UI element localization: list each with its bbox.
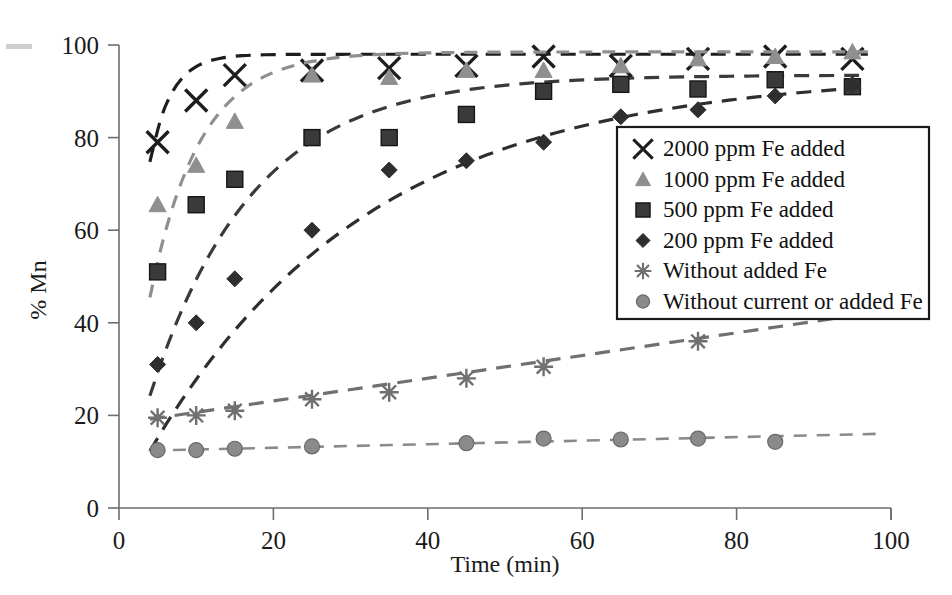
marker-asterisk-icon	[225, 401, 244, 420]
legend-item-label: 500 ppm Fe added	[663, 197, 834, 222]
chart-legend: 2000 ppm Fe added1000 ppm Fe added500 pp…	[617, 127, 929, 319]
marker-circle-icon	[459, 436, 474, 451]
series-trend-line	[150, 434, 876, 451]
x-tick-label: 20	[261, 527, 286, 554]
marker-square-icon	[458, 106, 474, 122]
x-tick-label: 80	[724, 527, 749, 554]
marker-triangle-icon	[381, 69, 398, 84]
scan-artifact	[6, 44, 32, 49]
x-axis-title: Time (min)	[450, 551, 559, 577]
series-group	[150, 431, 876, 458]
y-tick-label: 60	[74, 217, 99, 244]
legend-item-label: 200 ppm Fe added	[663, 228, 834, 253]
legend-item[interactable]: 2000 ppm Fe added	[633, 136, 845, 161]
marker-circle-icon	[305, 439, 320, 454]
chart-svg: 020406080100 020406080100 Time (min) % M…	[0, 0, 952, 595]
marker-asterisk-icon	[635, 263, 652, 280]
marker-circle-icon	[768, 434, 783, 449]
marker-square-icon	[767, 72, 783, 88]
marker-asterisk-icon	[303, 390, 322, 409]
marker-circle-icon	[691, 431, 706, 446]
y-tick-label: 100	[62, 32, 100, 59]
marker-diamond-icon	[381, 162, 397, 178]
marker-square-icon	[636, 203, 650, 217]
series-group	[148, 314, 868, 428]
marker-asterisk-icon	[148, 408, 167, 427]
y-tick-label: 40	[74, 310, 99, 337]
marker-x-cross-icon	[224, 64, 246, 86]
marker-square-icon	[304, 130, 320, 146]
y-tick-group: 020406080100	[62, 32, 120, 522]
marker-asterisk-icon	[187, 406, 206, 425]
marker-triangle-icon	[226, 113, 243, 128]
x-tick-label: 60	[570, 527, 595, 554]
legend-item[interactable]: 1000 ppm Fe added	[636, 167, 846, 192]
marker-diamond-icon	[613, 109, 629, 125]
legend-item-label: Without added Fe	[663, 258, 827, 283]
y-tick-label: 20	[74, 402, 99, 429]
marker-circle-icon	[189, 443, 204, 458]
legend-item[interactable]: Without current or added Fe	[636, 289, 922, 314]
marker-circle-icon	[227, 441, 242, 456]
marker-circle-icon	[536, 431, 551, 446]
marker-square-icon	[536, 83, 552, 99]
legend-item[interactable]: 200 ppm Fe added	[636, 228, 834, 253]
legend-item-label: 2000 ppm Fe added	[663, 136, 846, 161]
legend-item[interactable]: Without added Fe	[635, 258, 827, 283]
marker-diamond-icon	[304, 222, 320, 238]
y-axis-title: % Mn	[25, 260, 51, 319]
marker-diamond-icon	[767, 88, 783, 104]
marker-diamond-icon	[188, 315, 204, 331]
marker-square-icon	[188, 197, 204, 213]
legend-item[interactable]: 500 ppm Fe added	[636, 197, 834, 222]
marker-square-icon	[227, 171, 243, 187]
marker-circle-icon	[636, 295, 649, 308]
marker-circle-icon	[613, 432, 628, 447]
marker-x-cross-icon	[185, 90, 207, 112]
marker-square-icon	[613, 76, 629, 92]
y-tick-label: 80	[74, 125, 99, 152]
marker-square-icon	[381, 130, 397, 146]
marker-square-icon	[690, 81, 706, 97]
series-trend-line	[150, 314, 868, 420]
marker-diamond-icon	[227, 271, 243, 287]
marker-asterisk-icon	[457, 369, 476, 388]
marker-asterisk-icon	[534, 357, 553, 376]
x-tick-label: 100	[872, 527, 910, 554]
marker-triangle-icon	[149, 196, 166, 211]
y-tick-label: 0	[87, 495, 100, 522]
x-tick-label: 40	[415, 527, 440, 554]
chart-figure: 020406080100 020406080100 Time (min) % M…	[0, 0, 952, 595]
x-tick-label: 0	[113, 527, 126, 554]
marker-circle-icon	[150, 443, 165, 458]
marker-asterisk-icon	[380, 383, 399, 402]
x-tick-group: 020406080100	[113, 508, 910, 554]
legend-item-label: 1000 ppm Fe added	[663, 167, 846, 192]
marker-square-icon	[150, 264, 166, 280]
marker-asterisk-icon	[689, 332, 708, 351]
legend-item-label: Without current or added Fe	[663, 289, 923, 314]
